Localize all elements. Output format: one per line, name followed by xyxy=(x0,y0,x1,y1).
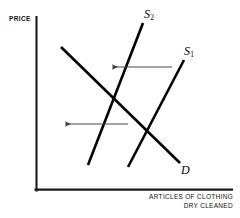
supply-curve-s2-subscript: 2 xyxy=(150,13,154,22)
y-axis-label: PRICE xyxy=(9,16,31,23)
supply-curve-s2-label: S2 xyxy=(144,8,154,20)
axis-lines xyxy=(36,17,233,191)
demand-curve-d xyxy=(61,47,180,163)
supply-curve-s1 xyxy=(128,60,184,167)
x-axis-label: ARTICLES OF CLOTHING DRY CLEANED xyxy=(149,193,233,210)
curves xyxy=(61,23,184,167)
diagram-canvas: PRICE ARTICLES OF CLOTHING DRY CLEANED S… xyxy=(0,0,240,218)
supply-demand-plot xyxy=(0,0,240,218)
supply-curve-s2 xyxy=(88,23,143,165)
supply-curve-s1-label: S1 xyxy=(184,45,194,57)
x-axis-label-line1: ARTICLES OF CLOTHING xyxy=(149,193,233,202)
demand-curve-d-label: D xyxy=(181,164,190,176)
supply-curve-s1-subscript: 1 xyxy=(190,50,194,59)
x-axis-label-line2: DRY CLEANED xyxy=(149,202,233,211)
